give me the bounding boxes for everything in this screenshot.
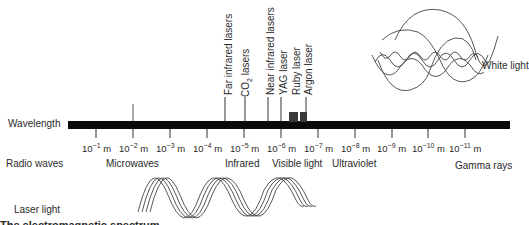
tick-label: 10−2 m (119, 142, 148, 154)
label-laser-light: Laser light (14, 204, 60, 215)
tick-label: 10−5 m (230, 142, 259, 154)
tick-label: 10−10 m (412, 142, 445, 154)
white-light-waves (372, 9, 498, 90)
label-far-infrared-lasers: Far infrared lasers (223, 14, 234, 95)
band-infrared: Infrared (225, 158, 259, 169)
tick-label: 10−11 m (449, 142, 482, 154)
label-yag-laser: YAG laser (278, 50, 289, 95)
band-microwaves: Microwaves (106, 158, 159, 169)
band-visible-light: Visible light (272, 158, 322, 169)
ruby-laser-block (289, 112, 298, 122)
label-co2-lasers: CO2 lasers (240, 49, 253, 97)
tick-label: 10−7 m (304, 142, 333, 154)
tick-label: 10−6 m (267, 142, 296, 154)
tick-label: 10−1 m (82, 142, 111, 154)
argon-laser-block (300, 112, 307, 122)
tick-label: 10−8 m (341, 142, 370, 154)
figure-caption-cropped: The electromagnetic spectrum (0, 219, 160, 225)
axis-label: Wavelength (8, 118, 60, 129)
tick-label: 10−4 m (193, 142, 222, 154)
laser-light-waves (138, 178, 316, 218)
tick-label: 10−3 m (156, 142, 185, 154)
band-ultraviolet: Ultraviolet (332, 158, 376, 169)
label-white-light: White light (482, 60, 529, 71)
wavelength-bar (68, 121, 510, 129)
tick-label: 10−9 m (377, 142, 406, 154)
label-near-infrared-lasers: Near infrared lasers (265, 7, 276, 95)
label-ruby-laser: Ruby laser (291, 47, 302, 95)
band-radio-waves: Radio waves (6, 158, 63, 169)
label-argon-laser: Argon laser (303, 44, 314, 95)
axis-ticks (96, 129, 465, 138)
band-gamma-rays: Gamma rays (455, 160, 512, 171)
